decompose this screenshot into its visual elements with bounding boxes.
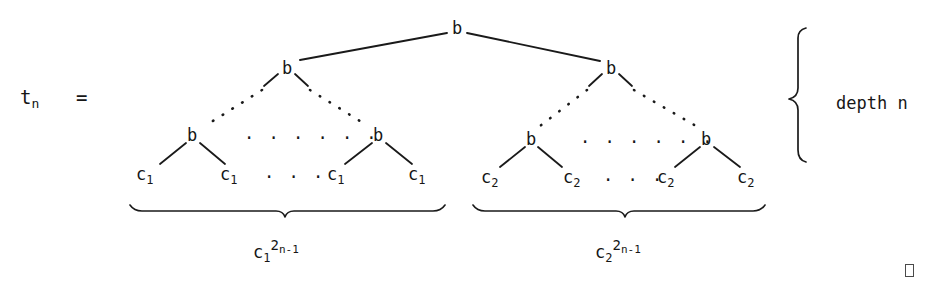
tree-node-level2-right: b bbox=[606, 60, 616, 77]
formula-base: c bbox=[253, 242, 263, 262]
leaf-subscript: 2 bbox=[491, 176, 498, 190]
leaf-subscript: 2 bbox=[573, 176, 580, 190]
equation-term-label: tn bbox=[20, 88, 39, 110]
ellipsis-level3-left: · · · · · · bbox=[244, 130, 379, 147]
leaf-base: c bbox=[136, 164, 146, 184]
edge-l3c-leaf2 bbox=[538, 147, 562, 167]
leaf-c2-4: c2 bbox=[737, 169, 754, 189]
formula-superscript-base: 2 bbox=[612, 237, 620, 253]
qed-box-icon bbox=[905, 264, 914, 277]
equation-term-base: t bbox=[20, 86, 31, 108]
edge-l3b-leaf4 bbox=[386, 143, 412, 164]
tree-node-level2-left: b bbox=[282, 60, 292, 77]
equation-term-subscript: n bbox=[31, 96, 39, 111]
underbrace-right-label: c22n-1 bbox=[595, 238, 641, 264]
formula-base: c bbox=[595, 242, 605, 262]
leaf-base: c bbox=[408, 164, 418, 184]
depth-label: depth n bbox=[836, 95, 908, 112]
leaf-base: c bbox=[563, 167, 573, 187]
leaf-base: c bbox=[737, 167, 747, 187]
dotted-edge-left-inner bbox=[310, 90, 368, 126]
tree-edges-and-braces bbox=[0, 0, 941, 305]
edge-root-left bbox=[300, 33, 447, 60]
edge-l3a-leaf2 bbox=[200, 143, 225, 164]
leaf-subscript: 2 bbox=[747, 176, 754, 190]
depth-brace bbox=[789, 28, 806, 162]
edge-l2right-downleft bbox=[589, 74, 602, 86]
ellipsis-level3-right: · · · · · · bbox=[580, 134, 715, 151]
leaf-subscript: 1 bbox=[418, 173, 425, 187]
edge-l3c-leaf1 bbox=[500, 147, 525, 167]
leaf-c1-4: c1 bbox=[408, 166, 425, 186]
leaf-c1-3: c1 bbox=[327, 166, 344, 186]
leaf-subscript: 1 bbox=[230, 173, 237, 187]
ellipsis-leaves-right: · · · bbox=[603, 172, 664, 189]
underbrace-left-label: c12n-1 bbox=[253, 238, 299, 264]
edge-root-right bbox=[467, 33, 600, 61]
dotted-edge-right-inner bbox=[634, 90, 696, 126]
leaf-subscript: 1 bbox=[337, 173, 344, 187]
leaf-c1-1: c1 bbox=[136, 166, 153, 186]
edge-l3a-leaf1 bbox=[160, 143, 186, 164]
formula-superscript-exponent: n-1 bbox=[621, 243, 641, 256]
equals-sign: = bbox=[76, 88, 87, 107]
ellipsis-leaves-left: · · · bbox=[264, 169, 325, 186]
leaf-subscript: 2 bbox=[667, 176, 674, 190]
underbrace-left bbox=[130, 205, 445, 217]
edge-l3d-leaf4 bbox=[714, 147, 740, 167]
leaf-c2-2: c2 bbox=[563, 169, 580, 189]
leaf-base: c bbox=[220, 164, 230, 184]
leaf-base: c bbox=[481, 167, 491, 187]
tree-figure: tn = b b b bbox=[0, 0, 941, 305]
edge-l2left-downleft bbox=[264, 74, 278, 86]
leaf-subscript: 1 bbox=[146, 173, 153, 187]
dotted-edge-left-outer bbox=[205, 90, 262, 126]
leaf-base: c bbox=[327, 164, 337, 184]
formula-superscript-exponent: n-1 bbox=[279, 243, 299, 256]
tree-node-level3-left-a: b bbox=[187, 127, 197, 144]
edge-l2right-downright bbox=[619, 74, 632, 86]
edge-l2left-downright bbox=[295, 74, 308, 86]
dotted-edge-right-outer bbox=[540, 90, 587, 126]
formula-superscript-base: 2 bbox=[270, 237, 278, 253]
leaf-c1-2: c1 bbox=[220, 166, 237, 186]
leaf-c2-1: c2 bbox=[481, 169, 498, 189]
tree-node-level3-right-a: b bbox=[526, 131, 536, 148]
underbrace-right bbox=[473, 205, 765, 217]
tree-node-root: b bbox=[452, 20, 462, 37]
